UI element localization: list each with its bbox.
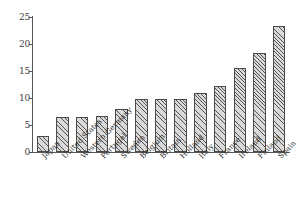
bar-chart-figure: 0510152025 JapanUnited StatesWestern Ger… (0, 0, 297, 216)
y-tick-label: 15 (19, 66, 30, 76)
y-tick-label: 25 (19, 12, 30, 22)
x-axis-labels: JapanUnited StatesWestern GermanyPortuga… (33, 154, 289, 214)
bar (214, 86, 227, 152)
y-tick-label: 20 (19, 39, 30, 49)
y-tick-label: 0 (24, 147, 30, 157)
bar (273, 26, 286, 152)
y-tick-label: 5 (24, 120, 30, 130)
y-tick-label: 10 (19, 93, 30, 103)
